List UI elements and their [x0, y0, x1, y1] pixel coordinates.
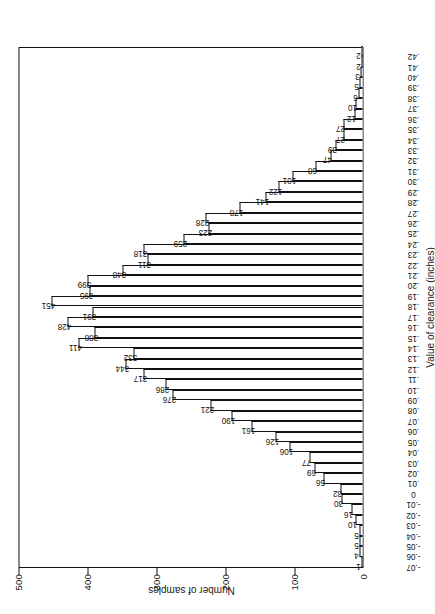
bar-value-label: 106 [279, 447, 293, 456]
category-axis-tick-label: .26 [407, 219, 418, 228]
bar: 348 [17, 265, 362, 275]
bar: 3 [17, 67, 362, 77]
category-axis-tick-label: .02 [407, 469, 418, 478]
category-axis-tick-label: .27 [407, 209, 418, 218]
category-axis-tick-label: -.05 [406, 542, 420, 551]
bar-rect [210, 400, 362, 410]
category-axis-tick-label: .29 [407, 188, 418, 197]
bar: 344 [17, 359, 362, 369]
category-axis-tick-label: .14 [407, 344, 418, 353]
bar: 178 [17, 202, 362, 212]
bar: 311 [17, 254, 362, 264]
bar-value-label: 221 [200, 406, 214, 415]
value-axis-tick-label: 0 [358, 574, 369, 579]
category-axis-tick-label: .12 [407, 365, 418, 374]
value-axis-tick-label: 400 [82, 574, 93, 590]
bar-value-label: 344 [115, 364, 129, 373]
category-axis-tick-label: .32 [407, 156, 418, 165]
bar: 318 [17, 244, 362, 254]
bar-value-label: 395 [80, 291, 94, 300]
bar: 428 [17, 317, 362, 327]
bar: 10 [17, 515, 362, 525]
bar: 47 [17, 150, 362, 160]
bar: 276 [17, 390, 362, 400]
bar: 122 [17, 181, 362, 191]
bar: 6 [17, 88, 362, 98]
category-axis-tick-label: .24 [407, 240, 418, 249]
bar: 395 [17, 286, 362, 296]
value-axis-tick-label: 100 [289, 574, 300, 590]
bar-rect [92, 307, 362, 317]
bar-rect [231, 411, 362, 421]
bar-value-label: 6 [353, 93, 358, 102]
bar-value-label: 47 [322, 155, 331, 164]
category-axis-tick-label: .21 [407, 271, 418, 280]
value-axis-tick-label: 300 [151, 574, 162, 590]
bar-value-label: 68 [308, 166, 317, 175]
bar-rect [292, 171, 362, 181]
rotated-figure-stage: Number of samples 0100200300400500 14551… [0, 0, 435, 614]
bar: 161 [17, 421, 362, 431]
bar: 5 [17, 536, 362, 546]
bar: 10 [17, 98, 362, 108]
bar: 106 [17, 442, 362, 452]
category-axis-tick-label: .25 [407, 229, 418, 238]
category-axis-tick-label: .33 [407, 146, 418, 155]
category-axis-tick-label: .11 [408, 375, 419, 384]
category-axis-tick-label: .20 [407, 281, 418, 290]
category-axis-tick-label: .42 [407, 52, 418, 61]
bar-rect [122, 265, 362, 275]
bar-value-label: 276 [162, 395, 176, 404]
value-axis-tick-mark [18, 568, 19, 575]
bar-value-label: 332 [123, 353, 137, 362]
bar-value-label: 27 [336, 135, 345, 144]
bar-rect [361, 46, 362, 56]
category-axis-tick-label: .36 [407, 115, 418, 124]
bar: 30 [17, 494, 362, 504]
category-axis-tick-label: .30 [407, 177, 418, 186]
bar-rect [172, 390, 362, 400]
bar-value-label: 228 [195, 218, 209, 227]
value-axis-tick-label: 200 [220, 574, 231, 590]
bar: 39 [17, 140, 362, 150]
bar-value-label: 16 [343, 510, 352, 519]
histogram-figure: Number of samples 0100200300400500 14551… [0, 0, 435, 614]
bar: 12 [17, 109, 362, 119]
bar-value-label: 122 [268, 187, 282, 196]
category-axis-tick-label: .22 [407, 261, 418, 270]
bar-value-label: 77 [301, 458, 310, 467]
category-axis-tick-label: .15 [407, 334, 418, 343]
bar: 223 [17, 223, 362, 233]
bar-rect [361, 557, 362, 567]
category-axis-tick-label: .35 [407, 125, 418, 134]
bar-value-label: 428 [57, 322, 71, 331]
bar-value-label: 39 [328, 145, 337, 154]
category-axis-tick-label: .04 [407, 448, 418, 457]
bar-rect [87, 275, 362, 285]
category-axis-tick-label: -.06 [406, 552, 420, 561]
bar-value-label: 178 [229, 208, 243, 217]
bar-rect [361, 56, 362, 66]
category-axis-tick-label: .01 [407, 479, 418, 488]
category-axis-tick-label: -.04 [406, 532, 420, 541]
bar-value-label: 10 [348, 520, 357, 529]
bar: 1 [17, 557, 362, 567]
bar: 411 [17, 338, 362, 348]
bar-rect [133, 348, 362, 358]
bar-rect [314, 463, 362, 473]
bar: 2 [17, 46, 362, 56]
bar-rect [340, 484, 362, 494]
bar-rect [289, 442, 362, 452]
bar-value-label: 391 [82, 312, 96, 321]
bar: 141 [17, 192, 362, 202]
category-axis-tick-label: -.07 [406, 563, 420, 572]
bar: 68 [17, 161, 362, 171]
bar: 286 [17, 379, 362, 389]
bar: 5 [17, 525, 362, 535]
bar-value-label: 388 [84, 333, 98, 342]
bar-rect [359, 525, 362, 535]
value-axis-tick-mark [156, 568, 157, 575]
category-axis-tick-label: .19 [407, 292, 418, 301]
bar-value-label: 56 [316, 478, 325, 487]
bar: 27 [17, 129, 362, 139]
